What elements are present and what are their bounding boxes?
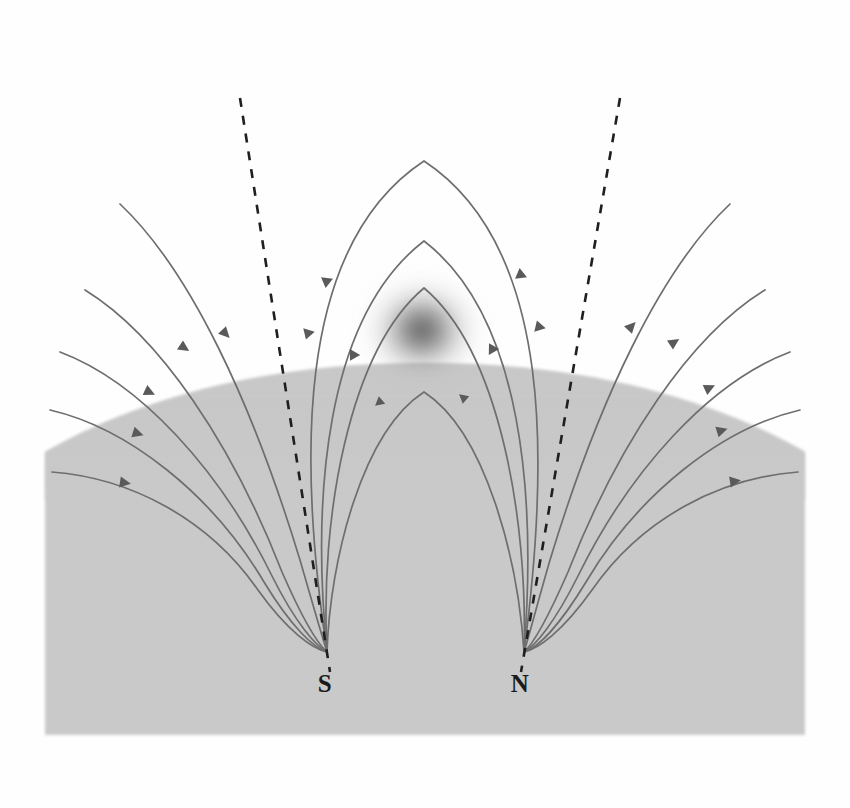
- solar-field-diagram: S N: [0, 0, 850, 808]
- arrow-inward-icon: [177, 340, 192, 355]
- arrow-down-icon: [320, 277, 333, 289]
- south-pole-label: S: [318, 670, 332, 697]
- arrow-down-icon: [300, 328, 315, 341]
- arrow-outward-icon: [667, 334, 682, 349]
- arrow-inward-icon: [218, 326, 234, 342]
- diagram-canvas: S N: [0, 0, 850, 808]
- prominence-core-icon: [392, 302, 452, 358]
- arrow-up-icon: [531, 319, 546, 332]
- arrow-outward-icon: [624, 318, 640, 334]
- north-pole-label: N: [511, 670, 530, 697]
- arrow-up-icon: [514, 267, 527, 279]
